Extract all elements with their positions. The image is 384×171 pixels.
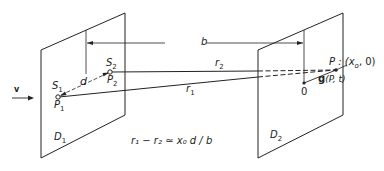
- source1-label: S1: [52, 81, 63, 94]
- screen1-letter: D: [54, 131, 62, 142]
- path2-label: r2: [215, 58, 224, 71]
- ray-r2-solid: [111, 71, 258, 72]
- path-difference-equation: r₁ − r₂ ≃ x₀ d / b: [131, 136, 212, 146]
- screen2-label: D2: [270, 130, 282, 143]
- separation-label: b: [201, 37, 207, 47]
- b-arrow-right-icon: [297, 41, 303, 45]
- source2-label: S2: [106, 58, 117, 71]
- origin-point: [302, 81, 305, 84]
- velocity-label: v: [14, 86, 19, 94]
- b-arrow-left-icon: [87, 41, 93, 45]
- point1-sub: 1: [60, 105, 64, 113]
- slit-distance-label: d: [80, 76, 87, 87]
- observation-point-label: P : (xo, 0): [329, 57, 376, 70]
- ray-r1-solid: [59, 77, 258, 97]
- point2-label: P2: [107, 75, 118, 88]
- source1-sub: 1: [58, 86, 62, 94]
- path1-label: r1: [186, 84, 195, 97]
- path1-sub: 1: [190, 89, 194, 97]
- field-args: (P, t): [325, 74, 345, 84]
- field-label: g(P, t): [318, 74, 346, 84]
- observation-point-tail: , 0): [359, 56, 376, 67]
- screen1-label: D1: [54, 132, 66, 145]
- screen1-sub: 1: [62, 137, 66, 145]
- observation-point-text: P : (x: [329, 56, 355, 67]
- origin-label: 0: [301, 87, 307, 97]
- screen2-letter: D: [270, 129, 278, 140]
- point1-label: P1: [54, 100, 65, 113]
- screen2-sub: 2: [278, 135, 282, 143]
- path2-sub: 2: [219, 63, 223, 71]
- velocity-arrowhead-icon: [28, 96, 34, 101]
- point2-sub: 2: [113, 80, 117, 88]
- ray-r2-dashed: [258, 70, 335, 71]
- source2-sub: 2: [112, 63, 116, 71]
